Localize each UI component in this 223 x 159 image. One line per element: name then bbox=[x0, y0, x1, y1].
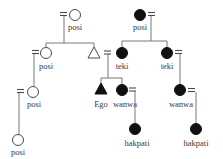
node-wanwa-left: wanwa bbox=[113, 85, 137, 110]
label-top-right-posi: posi bbox=[133, 22, 148, 32]
node-top-right-posi: posi bbox=[133, 10, 155, 33]
female-filled-circle-icon bbox=[117, 85, 128, 96]
label-wanwa-right: wanwa bbox=[169, 99, 193, 109]
node-lower-left-posi: posi bbox=[17, 87, 42, 110]
label-ego: Ego bbox=[94, 99, 108, 109]
female-filled-circle-icon bbox=[117, 48, 128, 59]
label-hakpati-left: hakpati bbox=[124, 138, 150, 148]
label-hakpati-right: hakpati bbox=[183, 138, 209, 148]
label-bottom-left-posi: posi bbox=[11, 147, 26, 157]
female-open-circle-icon bbox=[13, 135, 24, 146]
label-lower-left-posi: posi bbox=[27, 99, 42, 109]
female-open-circle-icon bbox=[41, 48, 52, 59]
female-filled-circle-icon bbox=[135, 10, 146, 21]
female-filled-circle-icon bbox=[162, 48, 173, 59]
label-mid-left-posi: posi bbox=[39, 61, 54, 71]
node-teki-right: teki bbox=[161, 48, 182, 72]
label-top-left-posi: posi bbox=[68, 22, 83, 32]
node-wanwa-right: wanwa bbox=[169, 85, 195, 110]
node-ego: Ego bbox=[94, 83, 108, 109]
female-open-circle-icon bbox=[70, 10, 81, 21]
label-teki-left: teki bbox=[116, 61, 129, 71]
node-top-left-posi: posi bbox=[60, 10, 83, 33]
kinship-diagram: posi posi posi teki teki bbox=[0, 0, 223, 159]
node-hakpati-right: hakpati bbox=[183, 124, 209, 149]
node-bottom-left-posi: posi bbox=[11, 135, 26, 158]
female-filled-circle-icon bbox=[191, 124, 202, 135]
female-filled-circle-icon bbox=[130, 124, 141, 135]
female-filled-circle-icon bbox=[175, 85, 186, 96]
label-teki-right: teki bbox=[161, 61, 174, 71]
node-teki-left: teki bbox=[116, 48, 129, 72]
female-open-circle-icon bbox=[28, 87, 39, 98]
node-mid-left-posi: posi bbox=[32, 48, 54, 72]
label-wanwa-left: wanwa bbox=[113, 99, 137, 109]
male-open-triangle-icon bbox=[88, 47, 100, 58]
node-hakpati-left: hakpati bbox=[124, 124, 150, 149]
male-filled-triangle-icon bbox=[95, 83, 107, 94]
